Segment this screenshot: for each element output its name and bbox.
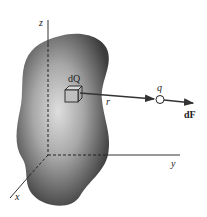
charged-body — [17, 34, 110, 206]
y-axis-label: y — [170, 158, 176, 169]
point-charge-label: q — [157, 82, 162, 93]
charge-element-label: dQ — [68, 73, 81, 84]
charge-element-cube-icon — [65, 86, 82, 102]
x-axis-line — [10, 175, 30, 198]
distance-label: r — [106, 96, 110, 107]
point-charge-icon — [156, 96, 164, 104]
coulomb-force-diagram: z y x dQ r q dF — [0, 0, 207, 217]
force-label: dF — [184, 109, 196, 120]
force-vector — [164, 100, 193, 103]
x-axis-label: x — [14, 191, 20, 202]
z-axis-label: z — [38, 17, 43, 28]
